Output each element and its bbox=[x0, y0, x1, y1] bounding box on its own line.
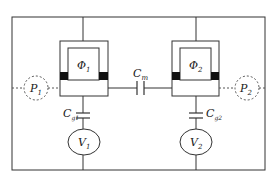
outer-loop bbox=[12, 17, 265, 170]
josephson-junction-1a bbox=[60, 72, 68, 80]
label-cg1: Cg1 bbox=[63, 107, 79, 122]
gate-branch-1 bbox=[68, 96, 100, 170]
josephson-junction-1b bbox=[99, 72, 108, 80]
circuit-diagram: Φ1 Φ2 Cm P1 P2 Cg1 Cg2 V1 V2 bbox=[0, 0, 276, 180]
label-v1: V1 bbox=[78, 136, 90, 151]
coupling-capacitor bbox=[108, 81, 172, 95]
josephson-junction-2a bbox=[172, 72, 180, 80]
label-v2: V2 bbox=[190, 136, 203, 151]
josephson-junction-2b bbox=[211, 72, 219, 80]
label-cm: Cm bbox=[133, 67, 148, 82]
label-cg2: Cg2 bbox=[206, 107, 222, 122]
